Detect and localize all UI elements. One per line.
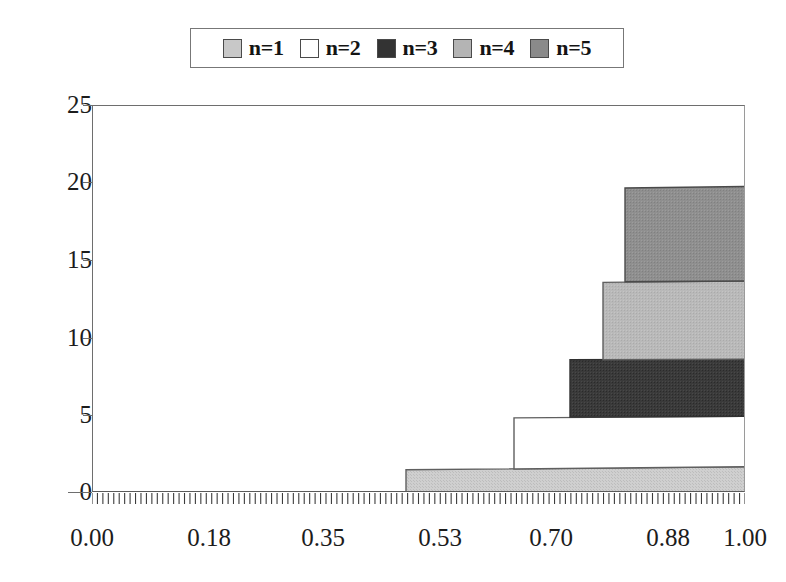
x-tick-label-0: 0.00 — [70, 525, 114, 550]
plot-series-svg — [93, 106, 745, 492]
x-tick-label-5: 0.88 — [646, 525, 690, 550]
legend-entry-n4[interactable]: n=4 — [453, 37, 514, 59]
legend-swatch-n1 — [223, 39, 242, 58]
legend-label-n4: n=4 — [479, 37, 514, 59]
y-tick-mark-5 — [83, 415, 92, 416]
y-axis: 25 20 15 10 5 0 — [0, 0, 92, 582]
y-tick-mark-10 — [83, 338, 92, 339]
x-tick-label-1: 0.18 — [187, 525, 231, 550]
legend-label-n3: n=3 — [403, 37, 438, 59]
plot-area — [92, 105, 745, 492]
legend-entry-n2[interactable]: n=2 — [300, 37, 361, 59]
series-band-n2 — [514, 416, 745, 469]
y-tick-mark-15 — [83, 260, 92, 261]
chart-legend: n=1 n=2 n=3 n=4 n=5 — [190, 28, 624, 68]
y-tick-mark-20 — [83, 182, 92, 183]
chart-container: n=1 n=2 n=3 n=4 n=5 — [0, 0, 786, 582]
legend-entry-n1[interactable]: n=1 — [223, 37, 284, 59]
x-tick-label-4: 0.70 — [529, 525, 573, 550]
y-tick-mark-0 — [68, 492, 92, 493]
legend-swatch-n2 — [300, 39, 319, 58]
series-band-n4 — [603, 281, 745, 360]
series-band-n5 — [625, 187, 745, 282]
series-band-n3 — [570, 359, 745, 417]
legend-swatch-n5 — [530, 39, 549, 58]
x-axis-minor-ticks — [92, 493, 745, 507]
y-tick-mark-25 — [83, 105, 92, 106]
legend-entry-n5[interactable]: n=5 — [530, 37, 591, 59]
series-band-n1 — [406, 467, 745, 492]
legend-label-n2: n=2 — [326, 37, 361, 59]
legend-swatch-n4 — [453, 39, 472, 58]
x-tick-label-6: 1.00 — [723, 525, 767, 550]
legend-entry-n3[interactable]: n=3 — [377, 37, 438, 59]
x-tick-label-3: 0.53 — [418, 525, 462, 550]
x-tick-label-2: 0.35 — [301, 525, 345, 550]
legend-label-n1: n=1 — [249, 37, 284, 59]
legend-swatch-n3 — [377, 39, 396, 58]
legend-label-n5: n=5 — [556, 37, 591, 59]
